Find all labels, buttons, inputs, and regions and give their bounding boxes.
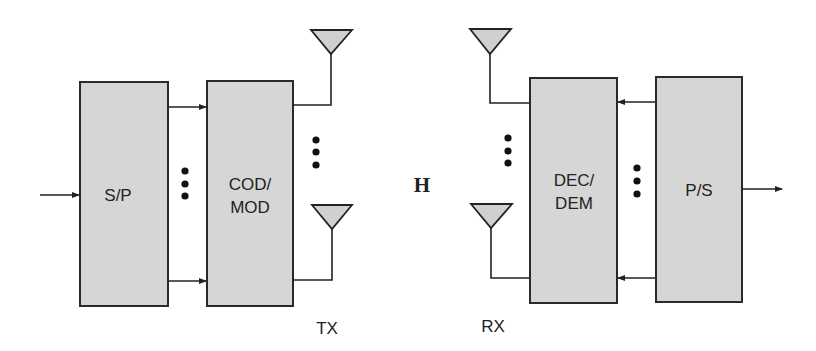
rx-antenna-bottom-icon xyxy=(471,204,530,278)
tx-antenna-bottom-icon xyxy=(293,205,352,280)
tx-antenna-top-icon xyxy=(293,30,352,105)
tx-label: TX xyxy=(316,319,338,338)
decdem-block: DEC/ DEM xyxy=(530,78,617,303)
ellipsis-dots-icon xyxy=(312,136,319,168)
ellipsis-dots-icon xyxy=(181,167,188,199)
ps-block: P/S xyxy=(656,77,742,302)
rx-label: RX xyxy=(481,317,505,336)
mimo-diagram: S/P COD/ MOD H xyxy=(0,0,816,351)
channel-matrix-label: H xyxy=(414,173,430,197)
sp-label: S/P xyxy=(104,186,131,205)
ellipsis-dots-icon xyxy=(504,134,511,166)
rx-antenna-top-icon xyxy=(470,29,530,103)
decdem-label-line2: DEM xyxy=(555,194,593,213)
codmod-label-line1: COD/ xyxy=(229,175,272,194)
decdem-label-line1: DEC/ xyxy=(554,171,595,190)
codmod-block: COD/ MOD xyxy=(207,81,293,306)
sp-block: S/P xyxy=(80,82,168,306)
codmod-label-line2: MOD xyxy=(230,198,270,217)
ellipsis-dots-icon xyxy=(633,164,640,197)
ps-label: P/S xyxy=(685,181,712,200)
